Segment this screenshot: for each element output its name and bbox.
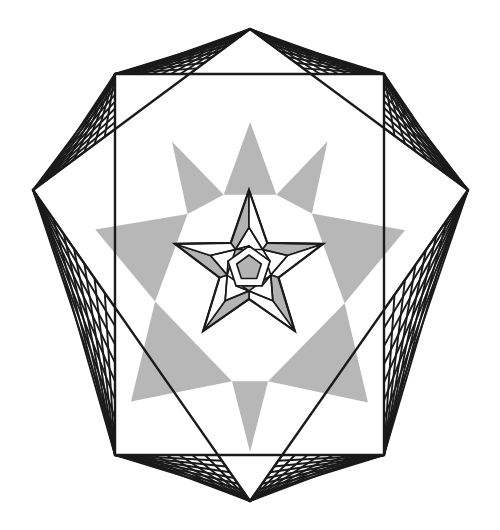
figure-root: Eight-pointed star string-art geometric … [0, 0, 500, 530]
geometric-star-artwork: Eight-pointed star string-art geometric … [0, 0, 500, 530]
